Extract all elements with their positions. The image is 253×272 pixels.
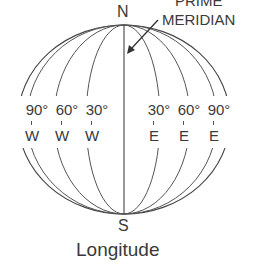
label-tick xyxy=(31,121,32,125)
diagram-title: Longitude xyxy=(76,240,159,259)
meridian-label-30w-degrees: 30° xyxy=(80,102,114,117)
meridian-label-30e-direction: E xyxy=(137,128,171,143)
north-pole-label: N xyxy=(117,4,129,20)
label-tick xyxy=(183,121,184,125)
label-tick xyxy=(213,121,214,125)
meridian-label-60w-degrees: 60° xyxy=(50,102,84,117)
meridian-label-90e-degrees: 90° xyxy=(202,102,236,117)
meridian-label-60e-direction: E xyxy=(167,128,201,143)
prime-label-line2: MERIDIAN xyxy=(162,12,235,27)
meridian-label-90w-direction: W xyxy=(15,128,49,143)
south-pole-label: S xyxy=(118,218,129,234)
meridian-label-90w-degrees: 90° xyxy=(20,102,54,117)
prime-label-line1: PRIME xyxy=(175,0,223,8)
meridian-label-90e-direction: E xyxy=(197,128,231,143)
annotation-arrow-line xyxy=(131,20,158,49)
meridian-label-30e-degrees: 30° xyxy=(142,102,176,117)
meridian-label-30w-direction: W xyxy=(75,128,109,143)
label-tick xyxy=(91,121,92,125)
meridian-label-60e-degrees: 60° xyxy=(172,102,206,117)
label-tick xyxy=(61,121,62,125)
label-tick xyxy=(153,121,154,125)
meridian-label-60w-direction: W xyxy=(45,128,79,143)
